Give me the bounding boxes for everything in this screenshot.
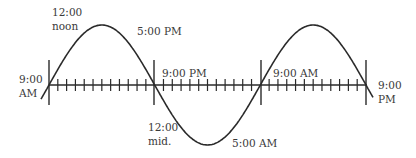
label-9am-left: 9:00 AM: [19, 73, 43, 100]
label-9am-middle: 9:00 AM: [273, 67, 318, 80]
label-noon-word: noon: [52, 20, 82, 33]
label-5am: 5:00 AM: [232, 137, 277, 150]
label-midnight-time: 12:00: [148, 121, 178, 134]
label-noon-time: 12:00: [52, 6, 82, 19]
label-9am-left-period: AM: [19, 87, 43, 100]
label-9pm-right: 9:00 PM: [378, 79, 402, 106]
label-9pm-right-time: 9:00: [378, 79, 402, 92]
label-midnight: 12:00 mid.: [148, 121, 178, 148]
sine-time-diagram: 12:00 noon 5:00 PM 9:00 AM 9:00 PM 12:00…: [0, 0, 416, 158]
label-9pm-right-period: PM: [378, 93, 402, 106]
label-noon: 12:00 noon: [52, 6, 82, 33]
label-midnight-word: mid.: [148, 135, 178, 148]
label-5pm: 5:00 PM: [137, 25, 182, 38]
label-9pm-middle: 9:00 PM: [162, 67, 207, 80]
label-9am-left-time: 9:00: [19, 73, 43, 86]
